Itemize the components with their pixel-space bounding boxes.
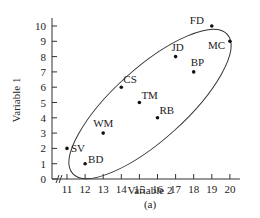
data-point: BP [191, 56, 204, 74]
data-point: JD [172, 41, 184, 59]
y-tick-label: 7 [41, 66, 47, 78]
point-label: BP [191, 56, 204, 68]
y-tick-label: 1 [41, 158, 47, 170]
data-point: MC [208, 39, 232, 51]
point-marker [101, 131, 105, 135]
data-point: SV [65, 142, 85, 154]
y-tick-label: 8 [41, 51, 47, 63]
point-marker [156, 116, 160, 120]
point-marker [138, 101, 142, 105]
data-point: WM [93, 117, 113, 135]
data-points: SVBDWMCSTMRBJDBPFDMC [65, 14, 232, 166]
grouping-ellipse [49, 8, 252, 201]
x-tick-label: 20 [224, 183, 236, 195]
y-tick-label: 2 [41, 142, 47, 154]
point-marker [174, 55, 178, 59]
x-tick-label: 14 [116, 183, 128, 195]
point-marker [210, 24, 214, 28]
y-tick-label: 5 [41, 97, 47, 109]
x-tick-label: 11 [62, 183, 73, 195]
point-label: MC [208, 39, 225, 51]
x-tick-label: 13 [98, 183, 110, 195]
y-tick-label: 9 [41, 35, 47, 47]
y-tick-label: 10 [35, 20, 47, 32]
point-label: SV [71, 142, 85, 154]
scatter-chart: 01234567891011121314151617181920 SVBDWMC… [0, 0, 260, 218]
x-tick-label: 18 [188, 183, 200, 195]
y-axis-label: Variable 1 [10, 78, 22, 123]
point-label: JD [172, 41, 184, 53]
x-tick-label: 19 [206, 183, 218, 195]
point-label: CS [123, 73, 136, 85]
figure-caption: (a) [144, 198, 157, 211]
point-label: FD [190, 14, 204, 26]
x-tick-label: 12 [80, 183, 91, 195]
point-label: WM [93, 117, 113, 129]
point-marker [83, 162, 87, 166]
point-label: RB [160, 104, 175, 116]
data-point: TM [138, 89, 159, 105]
point-label: TM [141, 89, 158, 101]
point-marker [192, 70, 196, 74]
point-marker [65, 147, 69, 151]
y-tick-label: 3 [41, 127, 47, 139]
data-point: FD [190, 14, 214, 28]
data-point: RB [156, 104, 174, 120]
point-label: BD [88, 153, 103, 165]
y-tick-label: 0 [41, 173, 47, 185]
x-axis-label: Variable 2 [128, 184, 173, 196]
y-tick-label: 4 [41, 112, 47, 124]
point-marker [120, 85, 124, 89]
data-point: BD [83, 153, 103, 166]
y-tick-label: 6 [41, 81, 47, 93]
point-marker [228, 40, 232, 44]
